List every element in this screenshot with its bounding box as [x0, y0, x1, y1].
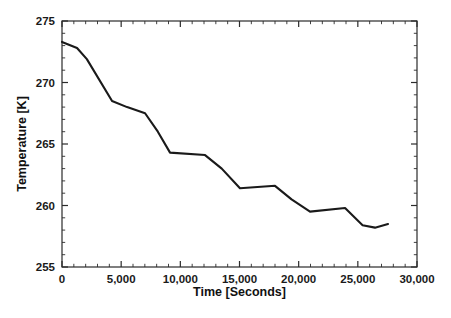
chart-background: [0, 0, 451, 318]
y-tick-label: 260: [36, 200, 55, 212]
y-tick-label: 275: [36, 15, 56, 27]
x-tick-label: 25,000: [340, 273, 375, 285]
y-tick-label: 270: [36, 77, 55, 89]
x-tick-label: 30,000: [399, 273, 434, 285]
chart-figure: 05,00010,00015,00020,00025,00030,000 255…: [0, 0, 451, 318]
x-tick-label: 20,000: [281, 273, 316, 285]
x-tick-label: 0: [59, 273, 65, 285]
y-axis-title: Temperature [K]: [15, 96, 29, 192]
x-axis-title: Time [Seconds]: [193, 285, 286, 299]
x-tick-label: 15,000: [222, 273, 257, 285]
y-tick-label: 265: [36, 138, 56, 150]
x-tick-label: 5,000: [107, 273, 136, 285]
y-tick-label: 255: [36, 261, 56, 273]
x-tick-label: 10,000: [163, 273, 198, 285]
temperature-time-line-chart: 05,00010,00015,00020,00025,00030,000 255…: [0, 0, 451, 318]
